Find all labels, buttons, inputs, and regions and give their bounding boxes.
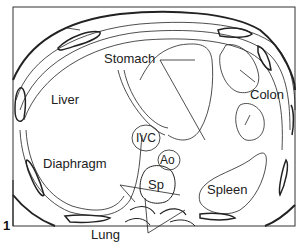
rib — [65, 215, 110, 222]
label-sp: Sp — [148, 178, 164, 191]
label-ao: Ao — [160, 154, 175, 166]
anatomy-diagram — [0, 0, 307, 249]
label-lung: Lung — [91, 228, 120, 241]
label-stomach: Stomach — [104, 52, 155, 65]
rib — [218, 28, 252, 37]
rib — [279, 160, 287, 195]
figure-frame — [13, 7, 295, 226]
label-spleen: Spleen — [207, 183, 247, 196]
rib — [67, 28, 80, 30]
figure-number: 1 — [3, 218, 10, 233]
rib — [15, 88, 25, 121]
label-ivc: IVC — [136, 132, 156, 144]
rib — [58, 32, 100, 50]
label-diaphragm: Diaphragm — [43, 157, 107, 170]
rib — [26, 160, 44, 196]
label-colon: Colon — [250, 88, 284, 101]
rib — [258, 46, 271, 70]
rib — [291, 105, 293, 135]
label-liver: Liver — [51, 93, 79, 106]
colon-outline — [220, 45, 259, 93]
liver-outline — [20, 130, 142, 216]
rib — [200, 213, 235, 220]
